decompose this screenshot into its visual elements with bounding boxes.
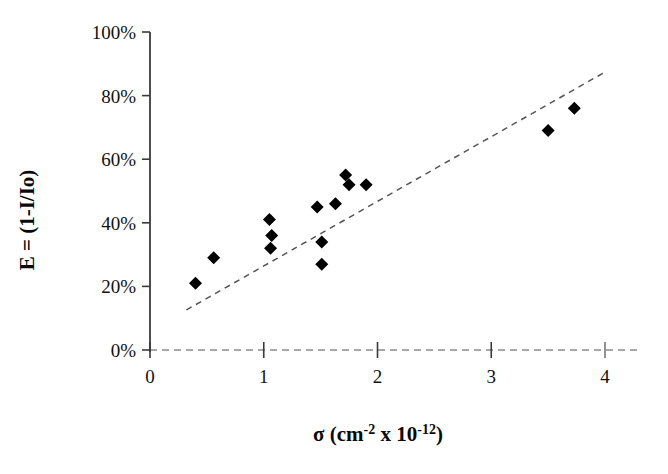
x-axis-title-exp2: -12 bbox=[417, 422, 436, 437]
y-tick-label-40: 40% bbox=[101, 213, 136, 234]
y-axis-title: E = (1-I/Io) bbox=[15, 170, 39, 271]
data-point bbox=[311, 200, 324, 213]
y-tick-label-100: 100% bbox=[92, 22, 137, 43]
x-axis-title-exp1: -2 bbox=[364, 422, 376, 437]
y-tick-label-0: 0% bbox=[111, 340, 137, 361]
y-tick-label-60: 60% bbox=[101, 149, 136, 170]
scatter-chart: 100% 80% 60% 40% 20% 0% 0 1 2 3 4 E = (1… bbox=[0, 0, 668, 474]
x-tick-label-0: 0 bbox=[145, 366, 155, 387]
data-point bbox=[568, 102, 581, 115]
x-axis-title: σ (cm-2 x 10-12) bbox=[313, 422, 443, 446]
data-point bbox=[265, 229, 278, 242]
y-axis-ticks bbox=[142, 32, 150, 350]
data-point bbox=[315, 235, 328, 248]
data-point bbox=[263, 213, 276, 226]
x-tick-label-1: 1 bbox=[259, 366, 269, 387]
x-tick-label-4: 4 bbox=[600, 366, 610, 387]
x-axis-title-sigma: σ bbox=[313, 422, 325, 446]
x-tick-label-3: 3 bbox=[487, 366, 497, 387]
x-tick-label-2: 2 bbox=[373, 366, 383, 387]
data-point-group bbox=[189, 102, 581, 290]
y-tick-label-20: 20% bbox=[101, 276, 136, 297]
x-axis-title-open: (cm bbox=[325, 422, 365, 446]
data-point bbox=[207, 251, 220, 264]
plot-canvas: 100% 80% 60% 40% 20% 0% 0 1 2 3 4 E = (1… bbox=[0, 0, 668, 474]
trend-line bbox=[186, 72, 605, 310]
x-axis-title-times: x 10 bbox=[375, 422, 417, 446]
data-point bbox=[315, 258, 328, 271]
data-point bbox=[360, 178, 373, 191]
data-point bbox=[542, 124, 555, 137]
x-axis-title-close: ) bbox=[436, 422, 443, 446]
data-point bbox=[189, 277, 202, 290]
data-point bbox=[329, 197, 342, 210]
y-tick-label-80: 80% bbox=[101, 86, 136, 107]
data-point bbox=[264, 242, 277, 255]
